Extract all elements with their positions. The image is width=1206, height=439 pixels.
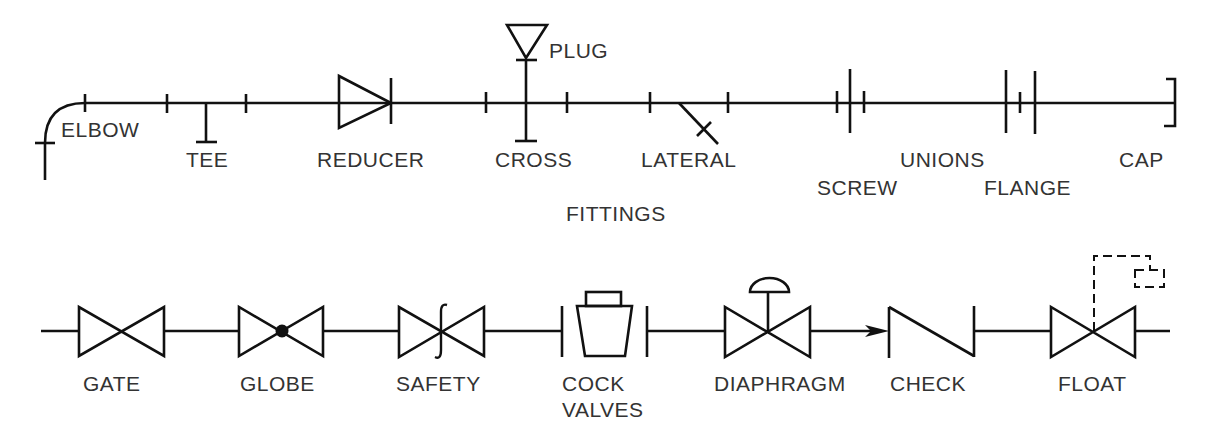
cock-valve-body <box>577 306 632 356</box>
label-reducer: REDUCER <box>317 148 424 171</box>
lateral-symbol <box>650 92 728 144</box>
globe-valve-dot <box>276 325 289 338</box>
fittings-row: ELBOW TEE REDUCER CROSS PLUG LATERAL UNI… <box>35 25 1175 225</box>
label-safety: SAFETY <box>396 372 481 395</box>
float-valve-linkage <box>1094 256 1150 331</box>
gate-valve-symbol <box>79 307 164 356</box>
tee-symbol <box>167 94 246 142</box>
label-flange: FLANGE <box>984 176 1071 199</box>
plug-symbol <box>507 25 547 60</box>
section-label-valves: VALVES <box>562 398 644 421</box>
label-cap: CAP <box>1119 148 1164 171</box>
gate-valve-bowtie <box>79 307 164 356</box>
label-unions: UNIONS <box>900 148 985 171</box>
label-cross: CROSS <box>495 148 572 171</box>
label-gate: GATE <box>83 372 141 395</box>
cock-valve-handle <box>586 292 621 306</box>
section-label-fittings: FITTINGS <box>566 202 666 225</box>
float-valve-float <box>1135 270 1164 287</box>
label-float: FLOAT <box>1058 372 1127 395</box>
safety-valve-symbol <box>399 305 484 358</box>
diaphragm-valve-symbol <box>725 278 810 357</box>
screw-union-symbol <box>837 69 864 133</box>
label-plug: PLUG <box>549 39 608 62</box>
label-diaphragm: DIAPHRAGM <box>714 372 846 395</box>
label-tee: TEE <box>186 148 228 171</box>
piping-symbols-diagram: ELBOW TEE REDUCER CROSS PLUG LATERAL UNI… <box>0 0 1206 439</box>
cross-symbol <box>486 60 567 141</box>
cock-valve-symbol <box>562 292 647 357</box>
globe-valve-symbol <box>239 307 323 356</box>
elbow-curve <box>45 103 85 180</box>
label-cock: COCK <box>562 372 625 395</box>
diaphragm-valve-dome <box>750 278 789 292</box>
check-valve-diagonal <box>889 307 974 356</box>
label-globe: GLOBE <box>240 372 315 395</box>
plug-triangle <box>507 25 547 58</box>
float-valve-symbol <box>1051 256 1164 357</box>
check-valve-symbol <box>865 306 974 358</box>
label-check: CHECK <box>890 372 966 395</box>
valves-row: GATE GLOBE SAFETY COCK DIAPHRAGM CHECK F… <box>41 256 1170 421</box>
label-elbow: ELBOW <box>61 118 139 141</box>
label-screw: SCREW <box>817 176 898 199</box>
label-lateral: LATERAL <box>641 148 736 171</box>
lateral-branch <box>679 103 718 144</box>
